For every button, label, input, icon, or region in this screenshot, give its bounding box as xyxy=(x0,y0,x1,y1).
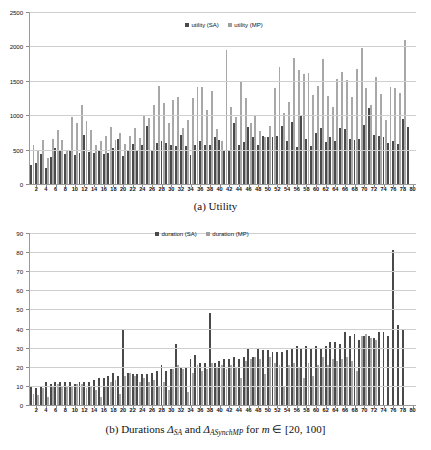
x-tickmark xyxy=(374,406,375,408)
x-tickmark xyxy=(403,185,404,187)
durations-bars xyxy=(30,233,416,405)
x-tickmark xyxy=(200,406,201,408)
legend-swatch-icon xyxy=(228,23,232,27)
y-tick-label: 20 xyxy=(16,363,23,370)
x-tickmark xyxy=(229,406,230,408)
x-tickmark xyxy=(65,406,66,408)
x-tickmark xyxy=(191,185,192,187)
y-tickmark xyxy=(26,386,29,387)
x-tickmark xyxy=(104,406,105,408)
x-tickmark xyxy=(220,185,221,187)
x-tickmark xyxy=(239,406,240,408)
legend-swatch-icon xyxy=(206,232,210,236)
panel-a-caption: (a) Utility xyxy=(0,200,431,212)
x-tickmark xyxy=(75,406,76,408)
x-tickmark xyxy=(393,406,394,408)
x-tickmark xyxy=(171,406,172,408)
x-tickmark xyxy=(113,185,114,187)
y-tick-label: 1000 xyxy=(10,112,23,119)
x-tickmark xyxy=(297,406,298,408)
x-tickmark xyxy=(123,185,124,187)
gridline xyxy=(30,348,416,349)
durations-x-axis: 2468101214161820222426283032343638404244… xyxy=(0,407,431,417)
utility-legend: utility (SA)utility (MP) xyxy=(185,22,263,28)
y-tick-label: 60 xyxy=(16,287,23,294)
x-tickmark xyxy=(142,406,143,408)
y-tick-label: 70 xyxy=(16,268,23,275)
x-tickmark xyxy=(200,185,201,187)
y-tickmark xyxy=(26,367,29,368)
utility-plot-area xyxy=(29,12,416,185)
x-tickmark xyxy=(268,185,269,187)
x-tickmark xyxy=(133,185,134,187)
x-tickmark xyxy=(277,406,278,408)
legend-label: utility (MP) xyxy=(234,22,262,28)
x-tickmark xyxy=(374,185,375,187)
x-tickmark xyxy=(104,185,105,187)
x-tickmark xyxy=(413,185,414,187)
y-tick-label: 90 xyxy=(16,230,23,237)
x-tickmark xyxy=(258,185,259,187)
x-tickmark xyxy=(56,185,57,187)
y-tick-label: 30 xyxy=(16,344,23,351)
legend-swatch-icon xyxy=(185,23,189,27)
x-tickmark xyxy=(142,185,143,187)
x-tickmark xyxy=(133,406,134,408)
x-tickmark xyxy=(229,185,230,187)
gridline xyxy=(30,290,416,291)
x-tickmark xyxy=(162,185,163,187)
gridline xyxy=(30,329,416,330)
x-tickmark xyxy=(152,185,153,187)
x-tickmark xyxy=(113,406,114,408)
x-tickmark xyxy=(75,185,76,187)
x-tickmark xyxy=(36,406,37,408)
x-tickmark xyxy=(335,406,336,408)
x-tickmark xyxy=(56,406,57,408)
bar-pair xyxy=(411,12,416,184)
y-tick-label: 50 xyxy=(16,306,23,313)
x-tickmark xyxy=(364,185,365,187)
x-tickmark xyxy=(403,406,404,408)
y-tickmark xyxy=(26,46,29,47)
x-tickmark xyxy=(384,406,385,408)
gridline xyxy=(30,252,416,253)
x-tickmark xyxy=(191,406,192,408)
x-tickmark xyxy=(152,406,153,408)
y-tickmark xyxy=(26,252,29,253)
x-tickmark xyxy=(94,406,95,408)
x-tickmark xyxy=(239,185,240,187)
x-tickmark xyxy=(413,406,414,408)
gridline xyxy=(30,386,416,387)
y-tick-label: 80 xyxy=(16,249,23,256)
x-tickmark xyxy=(306,406,307,408)
bar-sa xyxy=(397,325,399,405)
caption-b-text: (b) Durations ΔSA and ΔASynchMP for m ∈ … xyxy=(106,423,326,435)
x-tickmark xyxy=(249,185,250,187)
x-tickmark xyxy=(287,406,288,408)
utility-bars xyxy=(30,12,416,184)
x-tickmark xyxy=(335,185,336,187)
durations-legend: duration (SA)duration (MP) xyxy=(155,231,249,237)
x-tickmark xyxy=(65,185,66,187)
x-tickmark xyxy=(162,406,163,408)
x-tickmark xyxy=(36,185,37,187)
x-tickmark xyxy=(268,406,269,408)
x-tickmark xyxy=(297,185,298,187)
x-tickmark xyxy=(306,185,307,187)
durations-plot-area xyxy=(29,233,416,406)
x-tickmark xyxy=(345,185,346,187)
y-tick-label: 40 xyxy=(16,325,23,332)
legend-item-mp: duration (MP) xyxy=(206,231,249,237)
x-tickmark xyxy=(46,185,47,187)
x-tickmark xyxy=(123,406,124,408)
x-tickmark xyxy=(181,406,182,408)
legend-item-sa: duration (SA) xyxy=(155,231,197,237)
x-tickmark xyxy=(220,406,221,408)
y-tick-label: 1500 xyxy=(10,77,23,84)
utility-x-axis: 2468101214161820222426283032343638404244… xyxy=(0,186,431,196)
legend-swatch-icon xyxy=(155,232,159,236)
x-tickmark xyxy=(355,185,356,187)
gridline xyxy=(30,271,416,272)
y-tickmark xyxy=(26,233,29,234)
y-tickmark xyxy=(26,184,29,185)
